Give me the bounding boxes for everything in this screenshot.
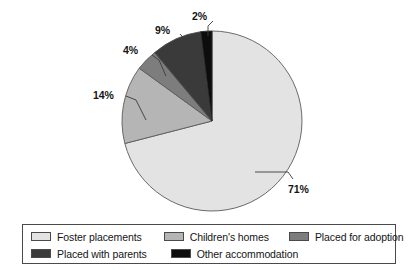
pie-label-71pct: 71% [288, 183, 309, 195]
pie-label-4pct: 4% [123, 44, 138, 56]
legend-swatch-childrens-homes [164, 232, 184, 241]
pie-slices [122, 31, 302, 211]
pie-chart-area: 2% 9% 4% 14% 71% [0, 0, 417, 220]
legend-label-foster-placements: Foster placements [57, 231, 142, 243]
legend-item-foster-placements[interactable]: Foster placements [31, 228, 142, 245]
legend-swatch-foster-placements [31, 232, 51, 241]
legend-swatch-other-accommodation [171, 249, 191, 258]
chart-legend: Foster placements Children's homes Place… [22, 224, 396, 264]
legend-swatch-placed-for-adoption [289, 232, 309, 241]
legend-item-childrens-homes[interactable]: Children's homes [164, 228, 269, 245]
legend-item-placed-with-parents[interactable]: Placed with parents [31, 245, 147, 262]
pie-label-2pct: 2% [192, 10, 207, 22]
pie-chart-svg [0, 0, 417, 220]
legend-label-childrens-homes: Children's homes [190, 231, 269, 243]
legend-label-other-accommodation: Other accommodation [197, 248, 298, 260]
pie-label-14pct: 14% [93, 89, 114, 101]
pie-label-9pct: 9% [155, 24, 170, 36]
legend-swatch-placed-with-parents [31, 249, 51, 258]
legend-label-placed-with-parents: Placed with parents [57, 248, 147, 260]
legend-row-1: Foster placements Children's homes Place… [31, 228, 395, 245]
legend-item-other-accommodation[interactable]: Other accommodation [171, 245, 298, 262]
legend-row-2: Placed with parents Other accommodation [31, 245, 395, 262]
legend-label-placed-for-adoption: Placed for adoption [315, 231, 404, 243]
legend-item-placed-for-adoption[interactable]: Placed for adoption [289, 228, 404, 245]
